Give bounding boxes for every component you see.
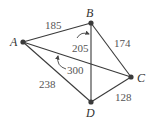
weight-label-cd: 128 (115, 91, 132, 103)
edge-b-c (91, 23, 131, 77)
graph-diagram: A B C D 185 174 128 238 205 300 (0, 0, 153, 128)
weight-label-ab: 185 (45, 19, 62, 31)
vertex-label-a: A (9, 35, 18, 49)
vertex-label-b: B (86, 6, 94, 20)
vertex-label-c: C (137, 71, 146, 85)
weight-label-bd: 205 (72, 42, 89, 54)
vertex-label-d: D (85, 106, 95, 120)
weight-label-ac: 300 (67, 64, 84, 76)
vertex-a (20, 39, 25, 44)
vertex-c (128, 74, 133, 79)
weight-label-bc: 174 (114, 37, 131, 49)
callout-arrow-bd (77, 33, 89, 38)
vertex-d (88, 99, 93, 104)
callout-arrow-ac (58, 56, 66, 69)
weight-label-ad: 238 (39, 78, 56, 90)
vertex-b (88, 20, 93, 25)
